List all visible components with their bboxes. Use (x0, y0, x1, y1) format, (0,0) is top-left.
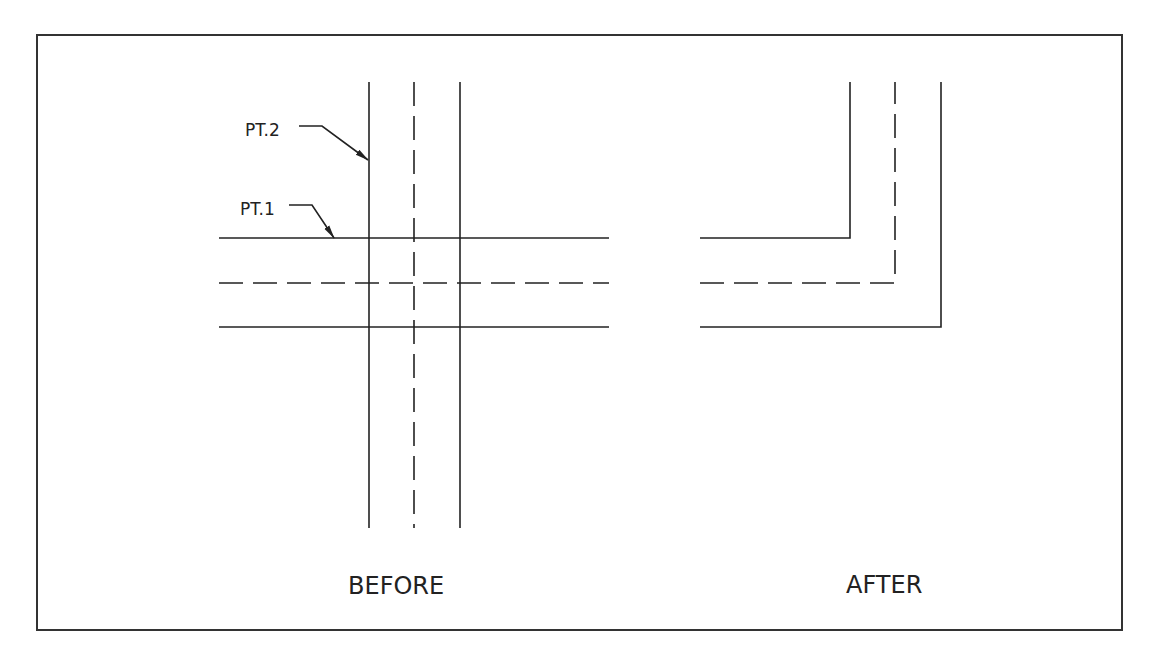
after-outer-wall-corner (700, 82, 941, 327)
cad-diagram: PT.2 PT.1 BEFORE AFTER (0, 0, 1155, 660)
pt2-leader-arrow (299, 126, 368, 160)
after-view: AFTER (700, 82, 941, 599)
pt1-label: PT.1 (240, 199, 275, 219)
after-inner-wall-corner (700, 82, 850, 238)
before-view: PT.2 PT.1 BEFORE (219, 82, 609, 600)
after-centerline-corner (700, 82, 895, 283)
drawing-frame (37, 35, 1122, 630)
pt1-leader-arrow (289, 205, 334, 238)
before-caption: BEFORE (348, 572, 444, 600)
after-caption: AFTER (846, 571, 922, 599)
pt2-label: PT.2 (245, 120, 280, 140)
